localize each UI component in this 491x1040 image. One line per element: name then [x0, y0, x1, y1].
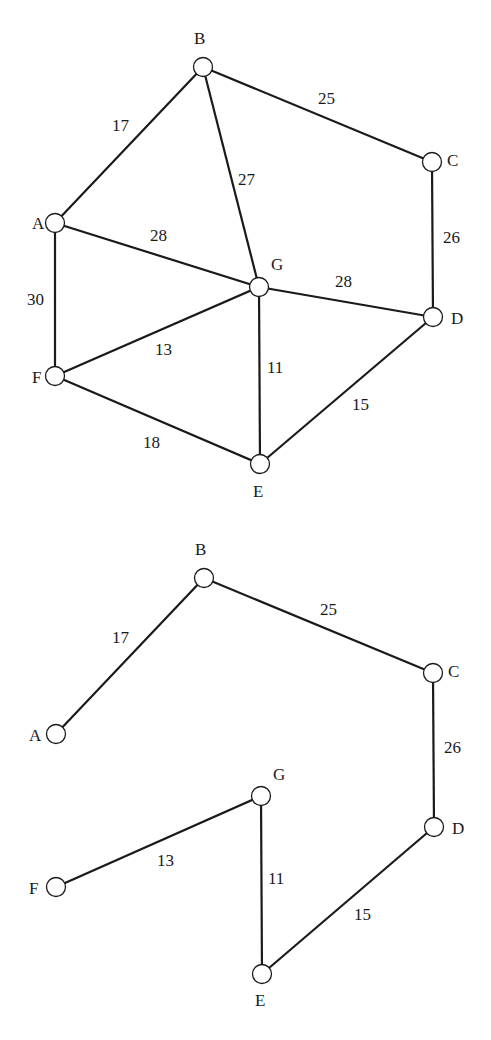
node-g: [250, 278, 269, 297]
node-label: A: [32, 214, 45, 233]
node-e: [253, 965, 272, 984]
edge-weight-label: 25: [318, 89, 335, 108]
node-c: [424, 664, 443, 683]
node-label: A: [29, 726, 42, 745]
node-label: C: [448, 662, 459, 681]
node-a: [46, 214, 65, 233]
minimum-spanning-tree-graph: 172526131115ABCDEFG: [29, 540, 464, 1010]
edge-c-d: [433, 673, 434, 827]
edge-weight-label: 15: [354, 905, 371, 924]
node-label: G: [273, 765, 285, 784]
edge-weight-label: 11: [267, 358, 283, 377]
edge-b-c: [203, 67, 432, 162]
edge-weight-label: 27: [238, 170, 256, 189]
node-label: C: [447, 151, 458, 170]
node-label: E: [253, 482, 263, 501]
edge-weight-label: 13: [155, 340, 172, 359]
node-a: [47, 725, 66, 744]
edge-weight-label: 28: [335, 272, 352, 291]
node-b: [194, 58, 213, 77]
edge-b-c: [204, 578, 433, 673]
node-label: B: [195, 540, 206, 559]
node-f: [46, 367, 65, 386]
node-d: [425, 818, 444, 837]
node-label: F: [29, 879, 38, 898]
node-c: [423, 153, 442, 172]
edge-weight-label: 11: [268, 869, 284, 888]
edge-e-d: [262, 827, 434, 974]
node-g: [252, 787, 271, 806]
edge-weight-label: 13: [157, 851, 174, 870]
edge-a-b: [55, 67, 203, 223]
node-label: G: [271, 255, 283, 274]
edge-weight-label: 18: [143, 433, 160, 452]
node-label: D: [451, 309, 463, 328]
edge-weight-label: 25: [320, 600, 337, 619]
edge-g-e: [259, 287, 260, 464]
edge-e-d: [260, 317, 433, 464]
edge-weight-label: 17: [112, 116, 130, 135]
edge-weight-label: 30: [27, 290, 44, 309]
node-e: [251, 455, 270, 474]
node-label: F: [32, 368, 41, 387]
edge-f-g: [56, 796, 261, 887]
edge-weight-label: 26: [443, 228, 460, 247]
edge-a-b: [56, 578, 204, 734]
node-b: [195, 569, 214, 588]
node-d: [424, 308, 443, 327]
full-network-graph: 1725272826283013111518ABCDEFG: [27, 29, 463, 501]
edge-weight-label: 26: [444, 738, 461, 757]
graph-diagram: 1725272826283013111518ABCDEFG 1725261311…: [0, 0, 491, 1040]
edge-f-g: [55, 287, 259, 376]
node-label: E: [255, 991, 265, 1010]
edge-c-d: [432, 162, 433, 317]
node-f: [47, 878, 66, 897]
edge-weight-label: 17: [112, 628, 130, 647]
node-label: D: [452, 819, 464, 838]
node-label: B: [194, 29, 205, 48]
edge-weight-label: 15: [352, 395, 369, 414]
edge-weight-label: 28: [150, 226, 167, 245]
edge-g-e: [261, 796, 262, 974]
edge-g-d: [259, 287, 433, 317]
